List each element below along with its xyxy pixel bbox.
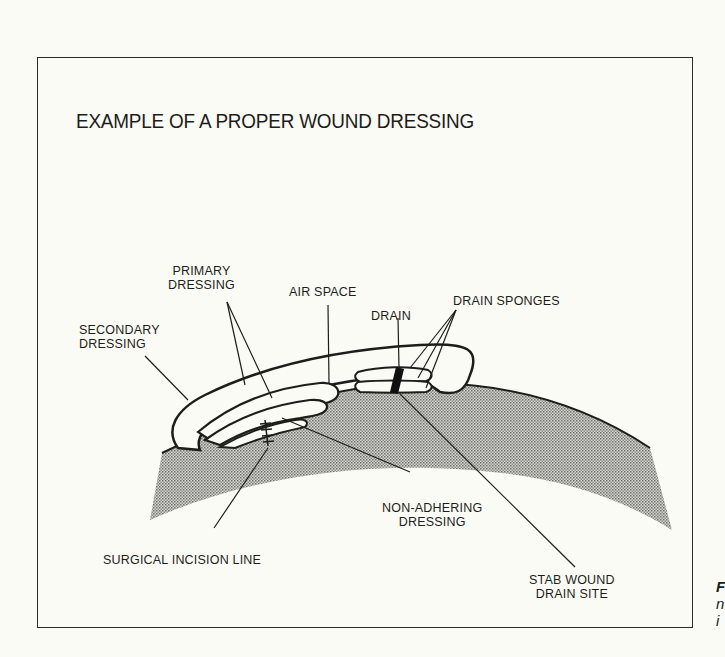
label-secondary-dressing: SECONDARY DRESSING (79, 323, 160, 351)
label-line: PRIMARY (168, 264, 235, 278)
label-air-space: AIR SPACE (289, 285, 357, 299)
label-drain-sponges: DRAIN SPONGES (453, 294, 560, 308)
label-surgical-incision-line: SURGICAL INCISION LINE (103, 553, 261, 567)
label-line: DRAIN SITE (529, 587, 615, 601)
label-line: DRESSING (79, 337, 160, 351)
label-line: DRESSING (168, 278, 235, 292)
cropped-caption-fragment: n (716, 595, 724, 612)
label-drain: DRAIN (371, 309, 411, 323)
cropped-caption-fragment: i (716, 612, 719, 629)
label-line: STAB WOUND (529, 573, 615, 587)
label-line: DRESSING (382, 515, 482, 529)
label-primary-dressing: PRIMARY DRESSING (168, 264, 235, 292)
label-line: NON-ADHERING (382, 501, 482, 515)
label-non-adhering-dressing: NON-ADHERING DRESSING (382, 501, 482, 529)
label-line: SECONDARY (79, 323, 160, 337)
label-stab-wound-drain-site: STAB WOUND DRAIN SITE (529, 573, 615, 601)
cropped-caption-fragment: F (716, 578, 725, 595)
